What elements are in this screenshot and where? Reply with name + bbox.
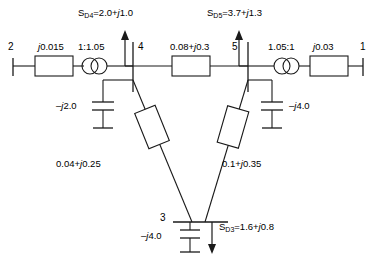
impedance-box-004j025 <box>135 105 170 148</box>
impedance-label-01j035: 0.1+j0.35 <box>222 159 261 169</box>
impedance-box-008j03 <box>172 56 210 76</box>
impedance-box-j0015 <box>35 56 73 76</box>
transformer-b-coil-left <box>274 58 290 74</box>
branch-4-3-line <box>133 80 192 222</box>
load-arrow-bus4-head <box>121 30 129 40</box>
transformer-b-ratio-label: 1.05:1 <box>268 42 294 52</box>
bus-2-label: 2 <box>8 42 14 52</box>
shunt-bus3-label: –j4.0 <box>141 231 162 241</box>
impedance-label-j0015: j0.015 <box>38 42 64 52</box>
load-label-bus4: SD4=2.0+j1.0 <box>78 8 133 18</box>
branch-5-3-line <box>205 80 248 222</box>
load-label-bus3: SD3=1.6+j0.8 <box>219 222 274 232</box>
bus-4-label: 4 <box>138 42 144 52</box>
load-arrow-bus3-head <box>208 244 216 254</box>
shunt-bus5-label: –j4.0 <box>289 101 310 111</box>
impedance-box-j003 <box>310 56 348 76</box>
bus-1-label: 1 <box>360 42 366 52</box>
impedance-box-01j035 <box>217 106 249 149</box>
impedance-label-004j025: 0.04+j0.25 <box>56 159 101 169</box>
transformer-a-ratio-label: 1:1.05 <box>78 42 104 52</box>
diagram-canvas <box>0 0 375 265</box>
impedance-label-j003: j0.03 <box>313 42 334 52</box>
load-arrow-bus5-head <box>235 30 243 40</box>
transformer-a-coil-left <box>82 58 98 74</box>
impedance-label-008j03: 0.08+j0.3 <box>170 42 209 52</box>
single-line-diagram: 2 1 4 5 3 j0.015 0.08+j0.3 j0.03 1:1.05 … <box>0 0 375 265</box>
load-label-bus5: SD5=3.7+j1.3 <box>207 8 262 18</box>
transformer-a-coil-right <box>91 58 107 74</box>
shunt-bus4-label: –j2.0 <box>56 101 77 111</box>
bus-5-label: 5 <box>232 42 238 52</box>
transformer-b-coil-right <box>283 58 299 74</box>
bus-3-label: 3 <box>160 213 166 223</box>
